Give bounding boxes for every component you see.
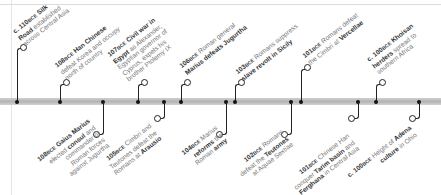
axis-dot: [374, 100, 378, 104]
axis-dot: [15, 100, 19, 104]
axis-dot: [58, 100, 62, 104]
axis-dot: [136, 100, 140, 104]
axis-dot: [233, 100, 237, 104]
axis-dot: [179, 100, 183, 104]
event-marker-icon: [379, 79, 386, 86]
top-border-line: [0, 4, 441, 5]
axis-dot: [299, 100, 303, 104]
event-marker-icon: [184, 79, 191, 86]
event-marker-icon: [409, 115, 416, 122]
event-marker-icon: [348, 115, 355, 122]
event-marker-icon: [141, 79, 148, 86]
event-marker-icon: [154, 115, 161, 122]
